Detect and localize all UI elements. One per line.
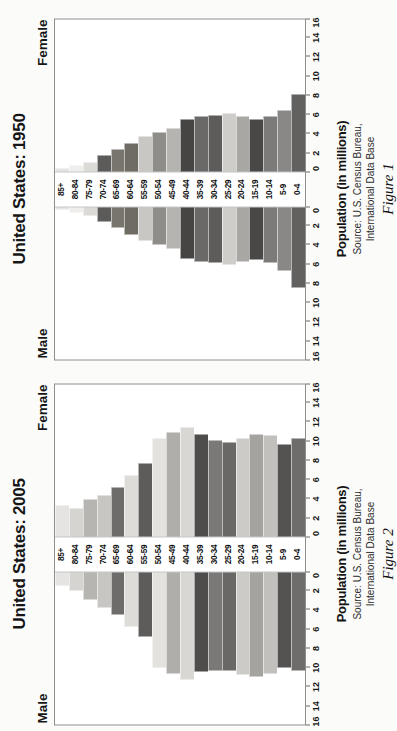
age-group-label: 75-79: [83, 172, 97, 206]
bar-row-male: [291, 572, 305, 724]
axis-tick: [306, 113, 310, 114]
bar-female: [277, 444, 291, 536]
bar-row-female: [55, 19, 69, 171]
bar-row-male: [277, 207, 291, 359]
bar-female: [124, 143, 138, 171]
axis-1950: 0246810121416 0246810121416: [306, 18, 328, 360]
bar-row-male: [152, 207, 166, 359]
bar-male: [152, 207, 166, 245]
axis-tick-label: 2: [311, 150, 321, 155]
bar-male: [208, 572, 222, 670]
age-group-label: 70-74: [97, 172, 111, 206]
axis-tick: [306, 340, 310, 341]
axis-tick: [306, 263, 310, 264]
age-group-label: 30-34: [208, 172, 222, 206]
age-group-label: 10-14: [263, 172, 277, 206]
age-group-label: 30-34: [208, 537, 222, 571]
bar-row-male: [138, 572, 152, 724]
bar-female: [236, 438, 250, 536]
bar-female: [208, 440, 222, 536]
bar-row-female: [208, 19, 222, 171]
bar-female: [249, 119, 263, 171]
age-group-label: 10-14: [263, 537, 277, 571]
bar-row-female: [166, 384, 180, 536]
axis-tick: [306, 75, 310, 76]
bar-row-female: [55, 384, 69, 536]
axis-tick-label: 14: [311, 701, 321, 711]
bar-row-female: [236, 384, 250, 536]
female-axis-1950: 0246810121416: [306, 18, 328, 172]
bar-female: [55, 505, 69, 536]
male-bars-1950: [55, 206, 305, 359]
bar-row-female: [83, 19, 97, 171]
bar-female: [180, 119, 194, 171]
bar-row-female: [97, 384, 111, 536]
axis-tick: [306, 478, 310, 479]
bar-female: [111, 487, 125, 536]
bar-row-female: [222, 19, 236, 171]
bar-row-male: [291, 207, 305, 359]
age-group-label: 5-9: [277, 537, 291, 571]
axis-tick: [306, 133, 310, 134]
bar-female: [194, 116, 208, 171]
axis-tick: [306, 301, 310, 302]
age-group-label: 55-59: [138, 537, 152, 571]
bar-female: [97, 495, 111, 536]
bar-male: [152, 572, 166, 667]
bar-row-female: [138, 384, 152, 536]
age-group-label: 60-64: [124, 172, 138, 206]
axis-tick: [306, 36, 310, 37]
bar-male: [69, 207, 83, 212]
axis-tick-label: 0: [311, 572, 321, 577]
axis-tick: [306, 724, 310, 725]
axis-tick-label: 16: [311, 351, 321, 361]
axis-tick-label: 6: [311, 112, 321, 117]
axis-tick-label: 4: [311, 607, 321, 612]
axis-tick-label: 2: [311, 515, 321, 520]
male-bars-2005: [55, 571, 305, 724]
axis-tick-label: 8: [311, 280, 321, 285]
axis-tick: [306, 609, 310, 610]
bar-row-male: [180, 207, 194, 359]
axis-tick: [306, 517, 310, 518]
bar-row-female: [291, 19, 305, 171]
bar-row-male: [222, 572, 236, 724]
axis-tick: [306, 321, 310, 322]
age-group-label: 15-19: [249, 172, 263, 206]
bar-male: [208, 207, 222, 262]
bar-female: [291, 438, 305, 536]
bar-row-male: [124, 572, 138, 724]
bar-row-female: [222, 384, 236, 536]
axis-tick: [306, 589, 310, 590]
axis-tick: [306, 56, 310, 57]
axis-tick: [306, 359, 310, 360]
female-bars-2005: [55, 384, 305, 537]
bar-row-female: [152, 384, 166, 536]
age-group-label: 65-69: [111, 172, 125, 206]
male-axis-2005: 0246810121416: [306, 571, 328, 725]
bar-row-male: [55, 207, 69, 359]
bar-female: [83, 162, 97, 171]
axis-tick-label: 14: [311, 336, 321, 346]
axis-title-1950: Population (in millions): [334, 11, 349, 366]
axis-tick-label: 12: [311, 51, 321, 61]
bar-row-male: [166, 572, 180, 724]
age-group-label: 50-54: [152, 537, 166, 571]
axis-tick: [306, 705, 310, 706]
bar-female: [166, 432, 180, 536]
bar-row-male: [124, 207, 138, 359]
axis-tick: [306, 421, 310, 422]
axis-2005: 0246810121416 0246810121416: [306, 383, 328, 725]
age-group-label: 45-49: [166, 172, 180, 206]
axis-tick-label: 12: [311, 316, 321, 326]
age-group-labels-2005: 85+80-8475-7970-7465-6960-6455-5950-5445…: [55, 537, 305, 571]
bar-row-male: [236, 207, 250, 359]
source-line-2-2005: International Data Base: [365, 376, 376, 731]
axis-tick-label: 14: [311, 397, 321, 407]
bar-male: [97, 207, 111, 221]
bar-male: [166, 572, 180, 673]
source-line-1-2005: Source: U.S. Census Bureau,: [352, 376, 363, 731]
bar-female: [69, 508, 83, 536]
female-label-2005: Female: [35, 384, 50, 431]
